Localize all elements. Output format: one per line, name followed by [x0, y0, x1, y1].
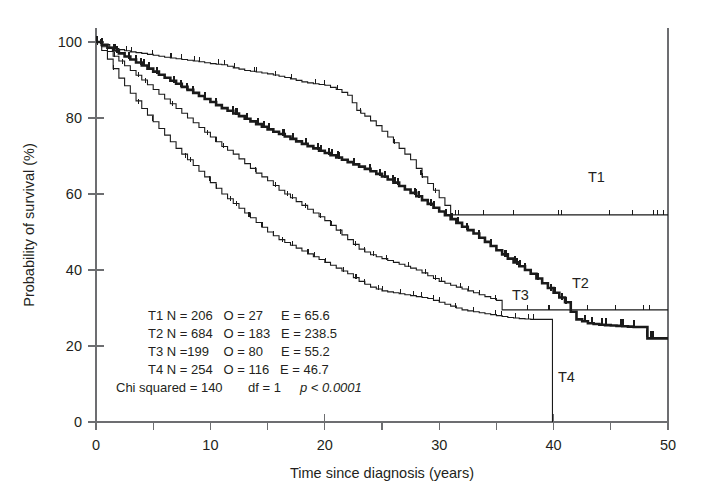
x-tick-label-10: 10 [202, 437, 218, 453]
x-tick-label-0: 0 [92, 437, 100, 453]
x-tick-label-40: 40 [546, 437, 562, 453]
stats-line-df: df = 1 [248, 380, 281, 395]
y-axis-title: Probability of survival (%) [21, 143, 37, 307]
x-tick-label-30: 30 [431, 437, 447, 453]
stats-line-p-value: p < 0.0001 [299, 380, 362, 395]
y-tick-label-20: 20 [66, 338, 82, 354]
curve-label-t3: T3 [512, 287, 529, 303]
y-tick-label-80: 80 [66, 110, 82, 126]
chart-background [0, 0, 706, 492]
y-tick-label-60: 60 [66, 186, 82, 202]
curve-label-t4: T4 [558, 369, 575, 385]
stats-line-t4: T4 N = 254 O = 116 E = 46.7 [148, 362, 329, 377]
y-tick-label-40: 40 [66, 262, 82, 278]
stats-line-t3: T3 N =199 O = 80 E = 55.2 [148, 344, 330, 359]
curve-label-t2: T2 [572, 275, 589, 291]
stats-line-chi-squared: Chi squared = 140 [116, 380, 223, 395]
survival-chart-figure: 0 20 40 60 80 100 0 10 20 30 40 [0, 0, 706, 492]
x-axis-title: Time since diagnosis (years) [290, 465, 474, 481]
x-tick-label-50: 50 [660, 437, 676, 453]
y-tick-label-0: 0 [74, 414, 82, 430]
x-tick-label-20: 20 [317, 437, 333, 453]
y-tick-label-100: 100 [58, 34, 82, 50]
kaplan-meier-chart: 0 20 40 60 80 100 0 10 20 30 40 [0, 0, 706, 492]
stats-line-t2: T2 N = 684 O = 183 E = 238.5 [148, 326, 337, 341]
stats-line-t1: T1 N = 206 O = 27 E = 65.6 [148, 308, 330, 323]
curve-label-t1: T1 [588, 169, 605, 185]
